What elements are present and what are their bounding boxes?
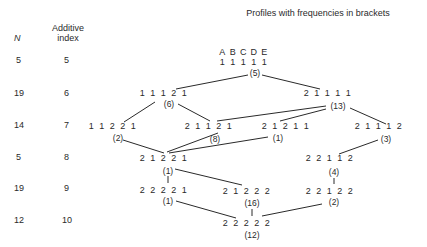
profile-node: 11221 — [86, 121, 139, 131]
attr-label: D — [249, 47, 260, 57]
frequency-label: (5) — [245, 68, 265, 78]
attr-label: E — [259, 47, 270, 57]
frequency-label: (2) — [108, 133, 128, 143]
frequency-label: (12) — [240, 230, 264, 240]
profile-node: 22221 — [137, 185, 190, 195]
frequency-label: (16) — [240, 198, 264, 208]
profile-node: 21211 — [259, 121, 312, 131]
frequency-label: (4) — [324, 167, 344, 177]
attribute-labels: ABCDE — [217, 47, 270, 57]
attr-label: A — [217, 47, 228, 57]
profile-node: 22222 — [220, 218, 273, 228]
frequency-label: (2) — [324, 197, 344, 207]
profile-node: 22122 — [303, 186, 356, 196]
profile-node: 21111 — [301, 88, 354, 98]
profile-node: 11111 — [217, 57, 270, 67]
attr-label: B — [228, 47, 239, 57]
profile-node: 21222 — [220, 186, 273, 196]
attr-label: C — [238, 47, 249, 57]
profile-node: 21221 — [137, 153, 190, 163]
frequency-label: (8) — [205, 134, 225, 144]
frequency-label: (1) — [158, 166, 178, 176]
profile-node: 21112 — [352, 121, 405, 131]
profile-node: 22112 — [303, 153, 356, 163]
frequency-label: (1) — [268, 133, 288, 143]
frequency-label: (3) — [376, 134, 396, 144]
frequency-label: (13) — [325, 101, 351, 111]
frequency-label: (6) — [159, 99, 179, 109]
frequency-label: (1) — [158, 196, 178, 206]
profile-node: 11121 — [137, 88, 190, 98]
profile-node: 21121 — [182, 121, 235, 131]
